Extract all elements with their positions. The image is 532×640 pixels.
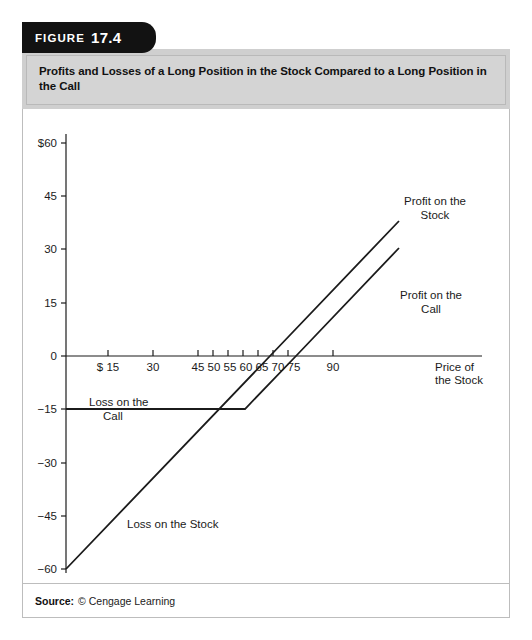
- y-tick-label-neg45: −45: [37, 510, 57, 522]
- y-tick-label-15: 15: [44, 297, 57, 309]
- x-tick-label-15: $ 15: [97, 361, 119, 373]
- x-axis-title: Price of the Stock: [435, 361, 483, 386]
- chart-plot: $60 45 30 15 0 −15 −30 −45 −60: [23, 109, 511, 583]
- figure-source-band: Source: © Cengage Learning: [22, 583, 510, 618]
- x-tick-label-55: 55: [224, 361, 237, 373]
- annotation-loss-stock: Loss on the Stock: [127, 518, 219, 530]
- x-axis-title-line1: Price of: [435, 361, 475, 373]
- annotation-profit-call-line2: Call: [421, 303, 441, 315]
- annotation-loss-call-line1: Loss on the: [89, 396, 148, 408]
- source-text: © Cengage Learning: [78, 595, 175, 607]
- x-axis-title-line2: the Stock: [435, 374, 483, 386]
- annotation-loss-call-line2: Call: [103, 410, 123, 422]
- x-tick-label-60: 60: [240, 361, 253, 373]
- figure-badge-word: FIGURE: [35, 32, 85, 44]
- annotation-loss-stock-line1: Loss on the Stock: [127, 518, 219, 530]
- y-tick-label-neg15: −15: [37, 403, 57, 415]
- figure-badge-number: 17.4: [91, 29, 121, 46]
- figure-title: Profits and Losses of a Long Position in…: [39, 64, 491, 94]
- y-tick-label-30: 30: [44, 243, 57, 255]
- figure-title-inner: Profits and Losses of a Long Position in…: [26, 55, 506, 105]
- annotation-profit-call: Profit on the Call: [400, 289, 462, 315]
- y-tick-label-0: 0: [51, 350, 57, 362]
- y-tick-label-neg60: −60: [37, 563, 57, 575]
- y-tick-label-60: $60: [38, 137, 57, 149]
- x-axis-labels: $ 15 30 45 50 55 60 65 70 75 90: [97, 361, 340, 373]
- figure-number-badge: FIGURE 17.4: [22, 22, 156, 53]
- x-tick-label-65: 65: [256, 361, 269, 373]
- y-axis-labels: $60 45 30 15 0 −15 −30 −45 −60: [37, 137, 57, 575]
- annotation-profit-stock-line1: Profit on the: [404, 195, 466, 207]
- figure-title-band: Profits and Losses of a Long Position in…: [22, 49, 510, 109]
- x-tick-label-90: 90: [327, 361, 340, 373]
- source-label: Source:: [35, 595, 74, 607]
- y-axis-ticks: [61, 143, 66, 569]
- y-tick-label-neg30: −30: [37, 457, 57, 469]
- y-tick-label-45: 45: [44, 190, 57, 202]
- x-tick-label-30: 30: [147, 361, 160, 373]
- figure-card: FIGURE 17.4 Profits and Losses of a Long…: [22, 22, 510, 618]
- annotation-profit-call-line1: Profit on the: [400, 289, 462, 301]
- chart-frame: $60 45 30 15 0 −15 −30 −45 −60: [22, 109, 510, 583]
- annotation-profit-stock: Profit on the Stock: [404, 195, 466, 221]
- x-tick-label-45: 45: [192, 361, 205, 373]
- annotation-profit-stock-line2: Stock: [421, 209, 450, 221]
- series-line-stock: [66, 221, 399, 569]
- x-tick-label-50: 50: [208, 361, 221, 373]
